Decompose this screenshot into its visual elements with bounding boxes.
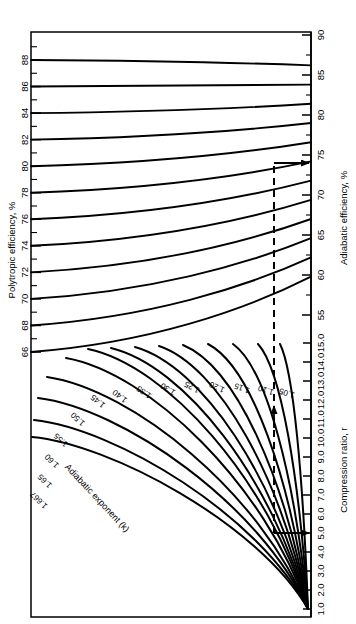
polytropic-tick-label: 80: [19, 161, 30, 172]
adiabatic-tick-label: 90: [315, 30, 326, 41]
polytropic-axis-title: Polytropic efficiency, %: [6, 201, 17, 298]
compression-tick-label: 10.0: [315, 429, 326, 448]
compression-tick-label: 5.0: [315, 526, 326, 539]
adiabatic-tick-label: 85: [315, 70, 326, 81]
polytropic-tick-label: 84: [19, 108, 30, 119]
adiabatic-tick-label: 70: [315, 190, 326, 201]
polytropic-efficiency-curve: [31, 60, 311, 65]
compression-tick-label: 6.0: [315, 507, 326, 520]
adiabatic-axis-tick-labels: 9085807570656055: [315, 30, 326, 321]
chart-page: 888684828078767472706866 908580757065605…: [0, 0, 356, 624]
polytropic-efficiency-curves: [31, 60, 311, 352]
adiabatic-tick-label: 55: [315, 310, 326, 321]
compression-tick-label: 11.0: [315, 410, 326, 428]
polytropic-efficiency-curve: [31, 257, 311, 325]
adiabatic-exponent-curve-labels: 1.051.101.151.201.251.301.351.401.451.50…: [28, 379, 296, 510]
polytropic-tick-label: 88: [19, 55, 30, 66]
polytropic-tick-label: 72: [19, 267, 30, 278]
polytropic-axis-tick-labels: 888684828078767472706866: [19, 55, 30, 358]
construction-arrows: [274, 163, 309, 533]
polytropic-tick-label: 68: [19, 320, 30, 331]
compression-tick-label: 12.0: [315, 391, 326, 410]
adiabatic-exponent-label: 1.55: [52, 431, 70, 449]
polytropic-efficiency-curve: [31, 85, 311, 87]
adiabatic-exponent-label: 1.35: [135, 383, 154, 400]
polytropic-efficiency-curve: [31, 181, 311, 220]
adiabatic-exponent-label: 1.50: [69, 410, 87, 428]
polytropic-axis-ticks: [31, 47, 41, 352]
compression-tick-label: 7.0: [315, 488, 326, 501]
adiabatic-axis-title: Adiabatic efficiency, %: [338, 170, 349, 265]
adiabatic-exponent-label: 1.65: [36, 472, 54, 490]
polytropic-efficiency-curve: [31, 123, 311, 140]
adiabatic-exponent-label: 1.40: [111, 387, 129, 404]
adiabatic-tick-label: 65: [315, 230, 326, 241]
polytropic-efficiency-curve: [31, 104, 311, 113]
adiabatic-tick-label: 80: [315, 110, 326, 121]
compression-tick-label: 1.0: [315, 602, 326, 615]
compression-tick-label: 8.0: [315, 469, 326, 482]
adiabatic-exponent-label: 1.20: [207, 379, 226, 394]
polytropic-tick-label: 70: [19, 294, 30, 305]
polytropic-tick-label: 78: [19, 187, 30, 198]
adiabatic-exponent-label: 1.15: [233, 381, 251, 395]
polytropic-tick-label: 82: [19, 134, 30, 145]
adiabatic-tick-label: 75: [315, 150, 326, 161]
compression-axis-title: Compression ratio, r: [338, 427, 349, 513]
polytropic-efficiency-curve: [31, 142, 311, 166]
compression-tick-label: 3.0: [315, 564, 326, 577]
compression-tick-label: 4.0: [315, 545, 326, 558]
compression-tick-label: 13.0: [315, 372, 326, 391]
polytropic-tick-label: 76: [19, 214, 30, 225]
compression-axis-tick-labels: 15.014.013.012.011.010.09.08.07.06.05.04…: [315, 334, 326, 616]
compression-tick-label: 15.0: [315, 334, 326, 353]
adiabatic-exponent-label: 1.10: [257, 383, 275, 397]
adiabatic-tick-label: 60: [315, 270, 326, 281]
compression-tick-label: 2.0: [315, 583, 326, 596]
polytropic-efficiency-curve: [31, 161, 311, 192]
nomograph-figure: 888684828078767472706866 908580757065605…: [0, 0, 356, 624]
compression-tick-label: 9.0: [315, 450, 326, 463]
compression-tick-label: 14.0: [315, 353, 326, 372]
adiabatic-exponent-title: Adiabatic exponent (k): [63, 462, 131, 534]
polytropic-tick-label: 66: [19, 347, 30, 358]
polytropic-tick-label: 74: [19, 241, 30, 252]
polytropic-efficiency-curve: [31, 219, 311, 272]
polytropic-efficiency-curve: [31, 277, 311, 352]
adiabatic-exponent-label: 1.60: [43, 452, 61, 470]
polytropic-tick-label: 86: [19, 81, 30, 92]
